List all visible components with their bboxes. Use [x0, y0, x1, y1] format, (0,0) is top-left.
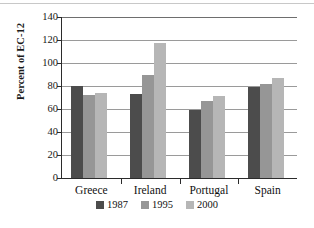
legend-swatch-2000: [186, 201, 194, 209]
legend-label-1987: 1987: [107, 200, 128, 211]
legend-swatch-1987: [96, 201, 104, 209]
y-tick-label-20: 20: [18, 150, 58, 161]
bar-greece-1995: [83, 95, 95, 178]
gridline-100: [62, 63, 297, 64]
bar-portugal-2000: [213, 96, 225, 178]
bar-ireland-1987: [130, 94, 142, 178]
bar-portugal-1987: [189, 110, 201, 178]
y-tick-label-140: 140: [18, 12, 58, 23]
bar-greece-1987: [71, 86, 83, 178]
category-label-portugal: Portugal: [180, 184, 239, 197]
legend-item-1995: 1995: [141, 200, 173, 211]
legend-label-2000: 2000: [197, 200, 218, 211]
bar-spain-2000: [272, 78, 284, 178]
category-label-spain: Spain: [238, 184, 297, 197]
legend-label-1995: 1995: [152, 200, 173, 211]
category-label-greece: Greece: [62, 184, 121, 197]
bar-ireland-1995: [142, 75, 154, 179]
y-tick-label-80: 80: [18, 81, 58, 92]
bar-spain-1987: [248, 87, 260, 178]
category-label-ireland: Ireland: [121, 184, 180, 197]
gridline-140: [62, 17, 297, 18]
y-tick-label-40: 40: [18, 127, 58, 138]
gridline-120: [62, 40, 297, 41]
y-tick-label-100: 100: [18, 58, 58, 69]
chart-legend: 198719952000: [0, 200, 314, 211]
bar-spain-1995: [260, 84, 272, 178]
bar-portugal-1995: [201, 101, 213, 178]
y-axis-line: [61, 17, 62, 179]
legend-item-2000: 2000: [186, 200, 218, 211]
y-tick-label-120: 120: [18, 35, 58, 46]
bar-chart: Percent of EC-12 140120100806040200 Gree…: [0, 0, 314, 228]
bar-greece-2000: [95, 93, 107, 178]
plot-area: [62, 17, 297, 178]
y-tick-label-0: 0: [18, 173, 58, 184]
legend-item-1987: 1987: [96, 200, 128, 211]
y-tick-label-60: 60: [18, 104, 58, 115]
top-divider-rule: [0, 3, 314, 4]
legend-swatch-1995: [141, 201, 149, 209]
bar-ireland-2000: [154, 43, 166, 178]
